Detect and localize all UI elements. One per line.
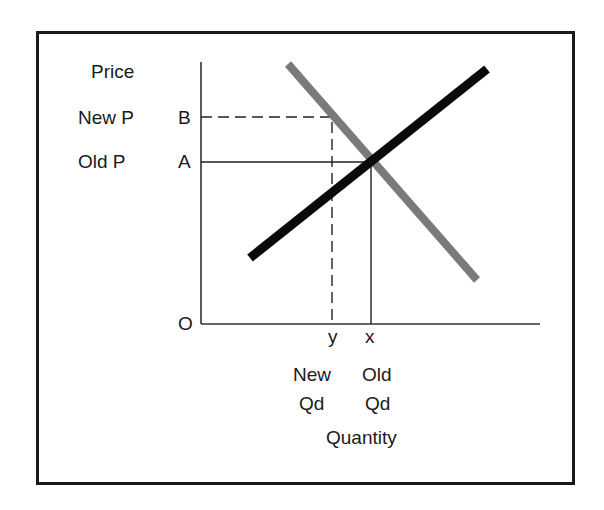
x-axis-label: Quantity: [326, 428, 397, 448]
old-qd-line2: Qd: [365, 394, 390, 414]
old-price-label: Old P: [78, 152, 126, 172]
old-qd-line1: Old: [362, 365, 392, 385]
new-price-label: New P: [78, 108, 134, 128]
point-y-label: y: [328, 327, 338, 347]
point-a-label: A: [178, 152, 191, 172]
supply-curve: [250, 69, 487, 258]
new-qd-line2: Qd: [299, 394, 324, 414]
point-x-label: x: [365, 327, 375, 347]
origin-label: O: [178, 314, 193, 334]
y-axis-label: Price: [91, 62, 134, 82]
new-price-guide-dashed: [201, 117, 332, 324]
point-b-label: B: [178, 108, 191, 128]
new-qd-line1: New: [293, 365, 331, 385]
